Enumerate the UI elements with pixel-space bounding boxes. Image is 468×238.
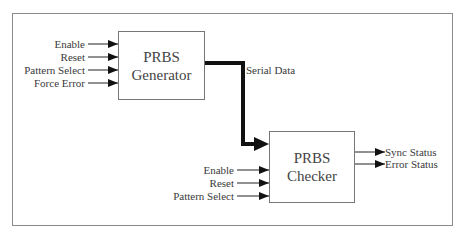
generator-input-force-error: Force Error: [34, 77, 85, 89]
generator-input-enable: Enable: [54, 38, 85, 50]
checker-output-error-status: Error Status: [385, 158, 438, 170]
generator-title-line1: PRBS: [143, 48, 180, 66]
prbs-checker-block: PRBS Checker: [269, 131, 355, 203]
checker-input-arrows: [237, 170, 269, 196]
generator-input-reset: Reset: [61, 51, 85, 63]
checker-input-enable: Enable: [203, 164, 234, 176]
checker-output-arrows: [355, 152, 385, 164]
checker-input-reset: Reset: [210, 177, 234, 189]
checker-title-line2: Checker: [287, 167, 337, 185]
checker-title-line1: PRBS: [294, 149, 331, 167]
checker-input-pattern-select: Pattern Select: [173, 190, 234, 202]
generator-input-pattern-select: Pattern Select: [24, 64, 85, 76]
generator-title-line2: Generator: [132, 66, 192, 84]
serial-data-label: Serial Data: [246, 64, 295, 76]
prbs-generator-block: PRBS Generator: [118, 31, 205, 100]
connection-wires: [0, 0, 468, 238]
generator-input-arrows: [88, 44, 118, 83]
checker-output-sync-status: Sync Status: [385, 146, 437, 158]
